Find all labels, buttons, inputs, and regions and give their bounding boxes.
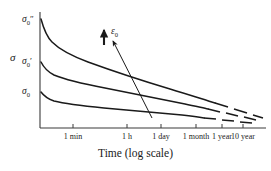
chart-canvas	[0, 0, 271, 171]
data-curves	[41, 19, 263, 123]
x-axis-tick-label: 1 min	[64, 133, 82, 141]
axes-group	[40, 12, 266, 128]
increasing-strain-arrow	[113, 41, 152, 118]
x-axis-tick-label: 1 day	[152, 133, 170, 141]
strain-annotation-label: ε0	[111, 27, 118, 38]
relaxation-curve-extrapolated	[204, 118, 252, 123]
stress-relaxation-chart: σ σ0″σ0′σ0 1 min1 h1 day1 month1 year10 …	[0, 0, 271, 171]
y-axis-tick-label: σ0″	[22, 15, 33, 26]
annotation-arrows	[104, 30, 152, 118]
x-axis-ticks	[73, 124, 243, 128]
x-axis-tick-label: 1 year	[212, 133, 232, 141]
relaxation-curve-extrapolated	[215, 103, 263, 118]
relaxation-curve	[41, 62, 208, 109]
x-axis-tick-label: 10 year	[231, 133, 255, 141]
y-axis-tick-label: σ0′	[22, 57, 32, 68]
relaxation-curve	[41, 92, 204, 118]
x-axis-tick-label: 1 month	[183, 133, 209, 141]
y-axis-tick-label: σ0	[22, 87, 30, 98]
y-axis-title: σ	[10, 52, 15, 63]
relaxation-curve	[41, 19, 215, 103]
x-axis-title: Time (log scale)	[98, 148, 173, 160]
x-axis-tick-label: 1 h	[122, 133, 132, 141]
